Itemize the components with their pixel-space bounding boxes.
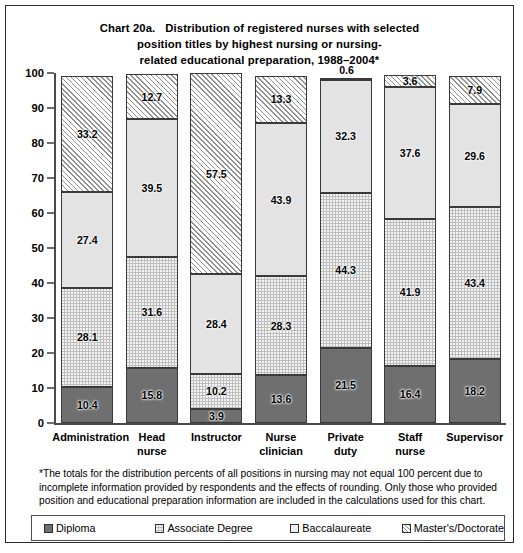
bar-segment[interactable]: 21.5 [320, 348, 372, 423]
bar-segment[interactable]: 28.4 [190, 274, 242, 373]
x-axis-label-administration: Administration [52, 430, 122, 444]
bar-segment[interactable]: 16.4 [384, 366, 436, 423]
bar-value-label: 13.3 [271, 93, 292, 105]
x-axis-label-line: Administration [52, 430, 122, 444]
y-tick-label-50: 50 [10, 243, 44, 253]
bar-value-label: 3.6 [403, 75, 418, 87]
y-tick-mark-100 [47, 72, 54, 73]
y-tick-mark-70 [47, 177, 54, 178]
bar-column[interactable]: 18.243.429.67.9 [449, 73, 501, 423]
bar-value-label: 10.2 [206, 385, 227, 397]
y-tick-mark-80 [47, 142, 54, 143]
bar-value-label: 15.8 [142, 389, 163, 401]
y-tick-mark-30 [47, 317, 54, 318]
x-axis-label-line: Instructor [181, 430, 251, 444]
bar-column[interactable]: 3.910.228.457.5 [190, 73, 242, 423]
x-axis-label-line: nurse [117, 444, 187, 458]
x-axis-labels: AdministrationHeadnurseInstructorNursecl… [54, 430, 506, 472]
bar-value-label: 27.4 [77, 234, 98, 246]
bar-segment[interactable]: 13.3 [255, 76, 307, 123]
x-axis-label-private-duty: Privateduty [311, 430, 381, 458]
x-axis-label-line: clinician [246, 444, 316, 458]
y-tick-mark-20 [47, 352, 54, 353]
bar-value-label: 7.9 [467, 84, 482, 96]
bar-value-label: 31.6 [142, 306, 163, 318]
y-tick-label-30: 30 [10, 313, 44, 323]
bar-column[interactable]: 16.441.937.63.6 [384, 73, 436, 423]
x-axis-label-line: Nurse [246, 430, 316, 444]
legend-label: Diploma [56, 522, 96, 534]
bar-column[interactable]: 15.831.639.512.7 [126, 73, 178, 423]
title-line-2: position titles by highest nursing or nu… [137, 38, 382, 50]
y-tick-label-80: 80 [10, 138, 44, 148]
bar-group: 10.428.127.433.215.831.639.512.73.910.22… [54, 73, 506, 423]
bar-segment[interactable]: 12.7 [126, 74, 178, 118]
bar-segment[interactable]: 3.6 [384, 75, 436, 88]
bar-segment[interactable]: 0.6 [320, 78, 372, 80]
legend-swatch-icon [290, 524, 299, 533]
bar-segment[interactable]: 43.9 [255, 123, 307, 277]
bar-segment[interactable]: 37.6 [384, 87, 436, 219]
x-axis-label-instructor: Instructor [181, 430, 251, 444]
bar-segment[interactable]: 28.1 [61, 288, 113, 386]
x-axis-label-nurse-clinician: Nurseclinician [246, 430, 316, 458]
bar-value-label: 43.9 [271, 194, 292, 206]
legend-swatch-icon [44, 524, 53, 533]
bar-segment[interactable]: 29.6 [449, 104, 501, 208]
y-tick-label-90: 90 [10, 103, 44, 113]
x-axis-label-line: Staff [375, 430, 445, 444]
bar-value-label: 3.9 [209, 410, 224, 422]
bar-segment[interactable]: 28.3 [255, 276, 307, 375]
bar-segment[interactable]: 43.4 [449, 207, 501, 359]
bar-segment[interactable]: 31.6 [126, 257, 178, 368]
plot-area: 0102030405060708090100 10.428.127.433.21… [54, 73, 506, 428]
bar-segment[interactable]: 27.4 [61, 192, 113, 288]
chart-frame: Chart 20a.Distribution of registered nur… [5, 5, 514, 543]
bar-segment[interactable]: 32.3 [320, 80, 372, 193]
bar-value-label: 16.4 [400, 388, 421, 400]
y-tick-mark-0 [47, 422, 54, 423]
bar-segment[interactable]: 13.6 [255, 375, 307, 423]
bar-segment[interactable]: 10.2 [190, 374, 242, 410]
legend-label: Baccalaureate [302, 522, 371, 534]
footnote-text: *The totals for the distribution percent… [39, 467, 501, 508]
bar-value-label: 0.6 [321, 64, 373, 76]
x-axis-label-line: nurse [375, 444, 445, 458]
bar-value-label: 28.3 [271, 320, 292, 332]
legend-swatch-icon [155, 524, 164, 533]
bar-value-label: 44.3 [335, 264, 356, 276]
legend: DiplomaAssociate DegreeBaccalaureateMast… [31, 515, 505, 541]
bar-value-label: 28.1 [77, 331, 98, 343]
chart-title: Chart 20a.Distribution of registered nur… [6, 20, 513, 68]
bar-value-label: 21.5 [335, 379, 356, 391]
legend-item[interactable]: Baccalaureate [290, 522, 401, 534]
bar-value-label: 13.6 [271, 393, 292, 405]
bar-segment[interactable]: 41.9 [384, 219, 436, 366]
legend-item[interactable]: Associate Degree [155, 522, 290, 534]
bar-segment[interactable]: 3.9 [190, 409, 242, 423]
bar-segment[interactable]: 57.5 [190, 73, 242, 274]
bar-value-label: 39.5 [142, 182, 163, 194]
bar-segment[interactable]: 10.4 [61, 387, 113, 423]
y-tick-mark-90 [47, 107, 54, 108]
y-tick-label-70: 70 [10, 173, 44, 183]
legend-item[interactable]: Master's/Doctorate [402, 522, 504, 534]
title-line-1: Distribution of registered nurses with s… [165, 22, 419, 34]
y-tick-label-0: 0 [10, 418, 44, 428]
bar-segment[interactable]: 39.5 [126, 119, 178, 257]
bar-segment[interactable]: 7.9 [449, 76, 501, 104]
bar-value-label: 33.2 [77, 128, 98, 140]
bar-value-label: 43.4 [464, 277, 485, 289]
bar-segment[interactable]: 18.2 [449, 359, 501, 423]
bar-column[interactable]: 21.544.332.30.6 [320, 73, 372, 423]
bar-segment[interactable]: 15.8 [126, 368, 178, 423]
legend-item[interactable]: Diploma [44, 522, 155, 534]
bar-column[interactable]: 13.628.343.913.3 [255, 73, 307, 423]
legend-swatch-icon [402, 524, 411, 533]
y-tick-label-40: 40 [10, 278, 44, 288]
y-tick-label-20: 20 [10, 348, 44, 358]
bar-column[interactable]: 10.428.127.433.2 [61, 73, 113, 423]
bar-segment[interactable]: 44.3 [320, 193, 372, 348]
bar-value-label: 28.4 [206, 318, 227, 330]
bar-segment[interactable]: 33.2 [61, 76, 113, 192]
